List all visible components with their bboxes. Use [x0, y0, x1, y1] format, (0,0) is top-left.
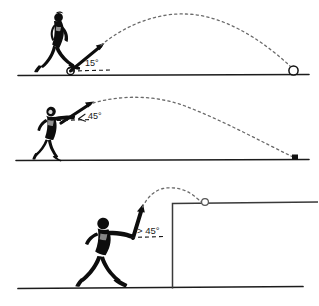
landing-circle-on-wall: [202, 199, 209, 206]
trajectory-path-45: [93, 97, 293, 157]
panel-shot-put-15: 15°: [18, 11, 309, 75]
thrower-figure: [75, 218, 133, 288]
ball-circle-landing-15: [289, 66, 298, 75]
ground-line-panel-3: [18, 287, 303, 289]
wall-obstacle: [173, 202, 319, 289]
panel-javelin-45: 45°: [16, 97, 309, 161]
ground-line-panel-1: [18, 75, 309, 76]
projectile-angle-figure: 15°: [0, 0, 318, 306]
angle-label-panel-2: 45°: [88, 111, 102, 121]
panel-over-wall-45: > 45°: [18, 188, 318, 289]
javelin-thrower-figure: [32, 107, 75, 162]
angle-label-panel-3: > 45°: [137, 225, 160, 236]
trajectory-path-15: [101, 14, 290, 66]
angle-label-panel-1: 15°: [85, 58, 99, 68]
angle-reference-line-steep: [131, 237, 164, 238]
angle-reference-line-15: [71, 70, 112, 71]
javelin-tip-mark: [292, 155, 298, 160]
shot-putter-figure: [34, 11, 80, 72]
